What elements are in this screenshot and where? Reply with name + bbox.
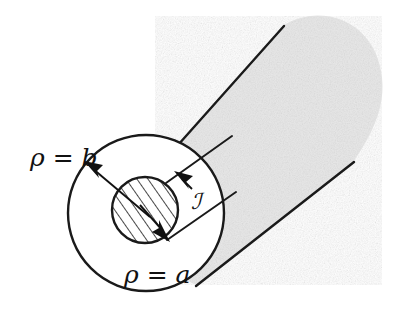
coaxial-cylinder-diagram: ρ = b ρ = a ℐ xyxy=(0,0,409,312)
label-inner-radius: ρ = a xyxy=(123,260,190,289)
figure-container: ρ = b ρ = a ℐ xyxy=(0,0,409,312)
label-outer-radius: ρ = b xyxy=(29,143,98,172)
